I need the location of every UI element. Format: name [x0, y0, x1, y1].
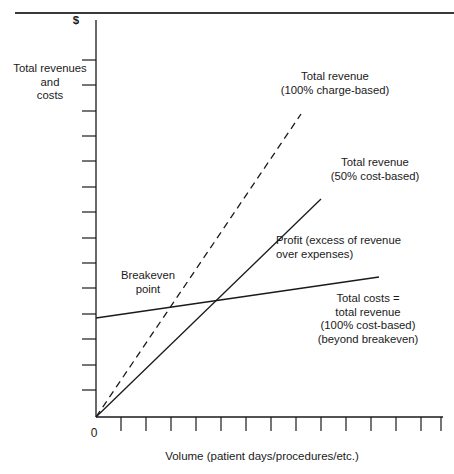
annotation-breakeven-point: Breakeven point	[103, 269, 193, 296]
y-axis-unit-symbol: $	[66, 14, 86, 28]
y-axis-title: Total revenues and costs	[8, 62, 92, 103]
chart-page: $ Total revenues and costs 0 Volume (pat…	[0, 0, 454, 474]
series-revenue-100-charge-based-line	[96, 114, 301, 417]
annotation-total-costs: Total costs = total revenue (100% cost-b…	[288, 292, 448, 346]
x-axis-title: Volume (patient days/procedures/etc.)	[97, 450, 427, 464]
y-axis-ticks	[82, 60, 96, 390]
annotation-total-revenue-charge-based: Total revenue (100% charge-based)	[240, 70, 430, 97]
annotation-profit: Profit (excess of revenue over expenses)	[276, 234, 451, 261]
x-axis-ticks	[121, 417, 441, 431]
annotation-total-revenue-cost-based-50: Total revenue (50% cost-based)	[300, 156, 450, 183]
origin-zero-label: 0	[84, 427, 104, 441]
